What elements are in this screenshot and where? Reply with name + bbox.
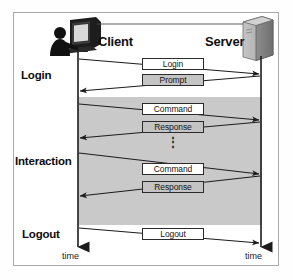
message-box-command-2: Command (142, 163, 204, 175)
client-time-label: time (62, 251, 79, 261)
server-time-label: time (245, 251, 262, 261)
message-box-response-2: Response (142, 181, 204, 193)
server-tower-icon (243, 17, 273, 61)
message-box-command-1: Command (142, 103, 204, 115)
phase-label-login: Login (21, 69, 51, 81)
message-box-prompt: Prompt (142, 74, 204, 86)
workstation-user-icon (50, 17, 101, 56)
continuation-ellipsis: ⋮ (162, 140, 184, 158)
message-box-login: Login (142, 58, 204, 70)
phase-label-interaction: Interaction (15, 155, 72, 167)
actor-label-server: Server (205, 34, 244, 49)
message-box-response-1: Response (142, 121, 204, 133)
actor-label-client: Client (98, 34, 133, 49)
sequence-diagram-figure: Client Server Login Interaction Logout L… (0, 0, 293, 280)
phase-label-logout: Logout (22, 228, 60, 240)
message-box-logout: Logout (142, 228, 204, 240)
